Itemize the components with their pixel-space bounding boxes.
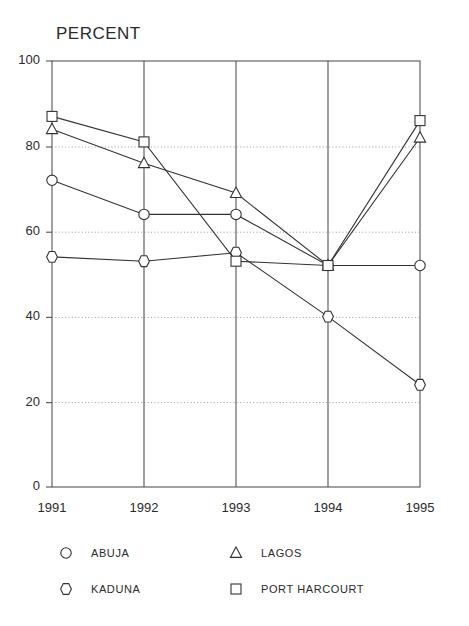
x-tick-1995: 1995 [390,500,450,515]
legend-item-abuja: ABUJA [55,538,129,568]
chart-container: PERCENT [0,0,469,626]
chart-legend: ABUJA LAGOS KADUNA PORT HARCOURT [0,534,469,614]
y-tick-40: 40 [0,308,40,323]
legend-label-lagos: LAGOS [261,547,302,559]
x-tick-1992: 1992 [114,500,174,515]
y-tick-100: 100 [0,52,40,67]
legend-item-port-harcourt: PORT HARCOURT [225,574,364,604]
x-tick-1994: 1994 [298,500,358,515]
y-tick-0: 0 [0,478,40,493]
legend-label-kaduna: KADUNA [91,583,140,595]
legend-label-port-harcourt: PORT HARCOURT [261,583,364,595]
square-marker-icon [225,578,247,600]
legend-item-kaduna: KADUNA [55,574,140,604]
hexagon-marker-icon [55,578,77,600]
circle-marker-icon [55,542,77,564]
y-tick-20: 20 [0,394,40,409]
vertical-gridlines [144,61,328,487]
legend-item-lagos: LAGOS [225,538,302,568]
y-tick-60: 60 [0,223,40,238]
x-tick-1993: 1993 [206,500,266,515]
y-tick-80: 80 [0,138,40,153]
x-tick-1991: 1991 [22,500,82,515]
triangle-marker-icon [225,542,247,564]
line-chart-plot [0,0,469,534]
legend-label-abuja: ABUJA [91,547,129,559]
